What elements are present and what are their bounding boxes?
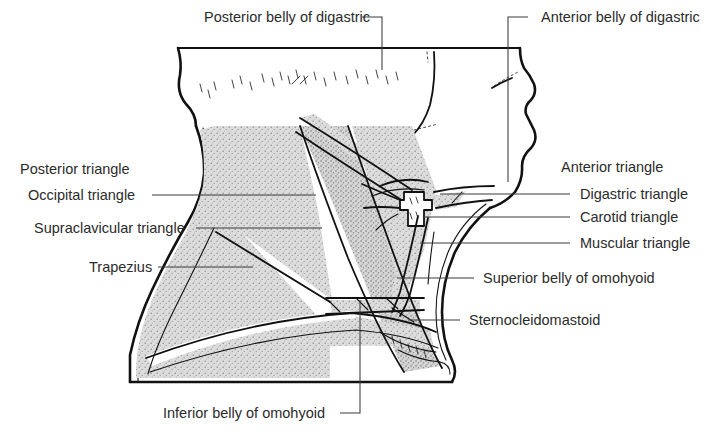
label-carotid-triangle: Carotid triangle bbox=[580, 209, 678, 225]
label-posterior-belly-of-digastric: Posterior belly of digastric bbox=[204, 9, 370, 25]
label-anterior-belly-of-digastric: Anterior belly of digastric bbox=[541, 9, 700, 25]
label-digastric-triangle: Digastric triangle bbox=[580, 186, 688, 202]
anatomical-figure-neck-triangles: Posterior belly of digastric Anterior be… bbox=[0, 0, 709, 436]
label-posterior-triangle: Posterior triangle bbox=[20, 161, 130, 177]
neck-triangles-illustration: Posterior belly of digastric Anterior be… bbox=[0, 0, 709, 436]
label-anterior-triangle: Anterior triangle bbox=[561, 159, 663, 175]
label-muscular-triangle: Muscular triangle bbox=[580, 235, 690, 251]
label-inferior-belly-of-omohyoid: Inferior belly of omohyoid bbox=[163, 405, 325, 421]
label-sternocleidomastoid: Sternocleidomastoid bbox=[469, 312, 600, 328]
stylohyoid-attachment bbox=[364, 207, 400, 208]
label-supraclavicular-triangle: Supraclavicular triangle bbox=[34, 220, 185, 236]
label-occipital-triangle: Occipital triangle bbox=[28, 187, 135, 203]
label-trapezius: Trapezius bbox=[89, 259, 152, 275]
label-superior-belly-of-omohyoid: Superior belly of omohyoid bbox=[483, 270, 655, 286]
